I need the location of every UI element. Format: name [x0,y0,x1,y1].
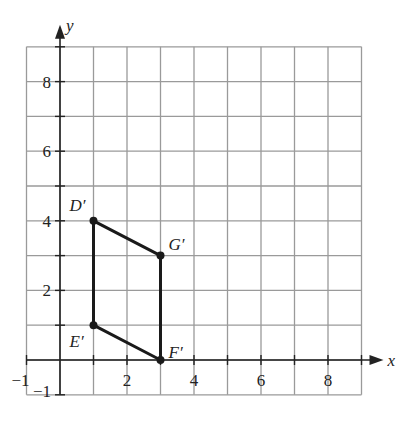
y-axis-label: y [64,16,74,35]
y-tick-label: 4 [43,212,52,231]
x-tick-label: 8 [324,371,333,390]
vertex-point [90,321,98,329]
coordinate-plane: −12468−12468xyD′G′F′E′ [0,0,404,421]
x-tick-label: −1 [11,371,29,390]
vertex-point [90,217,98,225]
vertex-label: D′ [69,196,86,215]
y-tick-label: 2 [43,281,52,300]
y-tick-label: 8 [43,73,52,92]
x-tick-label: 4 [190,371,199,390]
vertex-label: E′ [69,332,84,351]
vertex-label: G′ [169,235,185,254]
y-axis-arrow-icon [55,25,65,39]
vertex-point [157,252,165,260]
vertex-point [157,356,165,364]
x-axis-label: x [387,351,396,370]
x-tick-label: 2 [123,371,132,390]
y-tick-label: 6 [43,142,52,161]
y-tick-label: −1 [33,382,51,401]
x-axis-arrow-icon [370,355,384,365]
x-tick-label: 6 [257,371,266,390]
vertex-label: F′ [168,343,183,362]
